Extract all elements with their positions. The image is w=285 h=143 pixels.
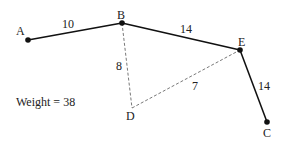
node-label-c: C	[263, 127, 271, 139]
edge-weight-e-c: 14	[258, 80, 270, 92]
edge-weight-d-e: 7	[192, 80, 198, 92]
edge-b-d	[122, 23, 132, 108]
node-label-e: E	[238, 36, 245, 48]
edge-weight-b-e: 14	[180, 23, 192, 35]
graph-canvas	[0, 0, 285, 143]
edge-d-e	[132, 50, 240, 108]
node-c	[264, 119, 270, 125]
node-a	[25, 37, 31, 43]
edge-weight-b-d: 8	[116, 60, 122, 72]
edge-weight-a-b: 10	[62, 18, 74, 30]
node-label-b: B	[117, 9, 125, 21]
node-label-d: D	[126, 110, 135, 122]
node-label-a: A	[16, 25, 25, 37]
edge-a-b	[28, 23, 122, 40]
weight-total-text: Weight = 38	[16, 96, 75, 108]
